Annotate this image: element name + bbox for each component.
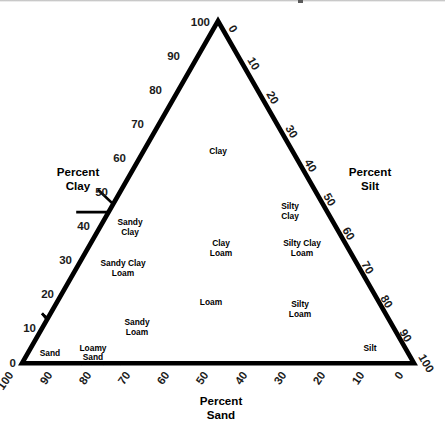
left-tick-50: 50 — [95, 186, 108, 198]
region-label-clay-loam-line1: Clay — [212, 238, 230, 248]
bottom-axis-title-line1: Percent — [200, 394, 243, 407]
region-label-sandy-clay-line1: Sandy — [117, 217, 142, 227]
region-label-sandy-loam-line1: Sandy — [124, 317, 149, 327]
region-label-silty-clay-loam-line1: Silty Clay — [283, 238, 321, 248]
right-axis-title-line1: Percent — [349, 165, 392, 178]
bottom-tick-20: 20 — [310, 369, 327, 386]
region-label-sandy-clay-loam-line1: Sandy Clay — [100, 258, 145, 268]
left-tick-100: 100 — [191, 16, 210, 28]
bottom-tick-10: 10 — [349, 369, 366, 386]
region-label-clay: Clay — [209, 146, 227, 156]
bottom-tick-30: 30 — [271, 369, 288, 386]
bottom-axis-tick-labels: 100 90 80 70 60 50 40 30 20 10 0 — [0, 369, 406, 392]
left-tick-80: 80 — [149, 84, 162, 96]
right-tick-100: 100 — [416, 352, 436, 375]
left-tick-30: 30 — [59, 254, 72, 266]
left-tick-40: 40 — [77, 220, 90, 232]
soil-texture-triangle-figure: Clay Silty Clay Sandy Clay Clay Loam Sil… — [0, 0, 445, 429]
triangle-outline — [22, 21, 414, 363]
region-label-silty-loam-line2: Loam — [289, 309, 311, 319]
left-tick-0: 0 — [10, 357, 16, 369]
bottom-tick-90: 90 — [37, 369, 54, 386]
region-label-clay-loam-line2: Loam — [210, 248, 232, 258]
left-tick-10: 10 — [23, 322, 36, 334]
bottom-tick-80: 80 — [76, 369, 93, 386]
region-label-loamy-sand-line2: Sand — [83, 352, 103, 362]
bottom-tick-40: 40 — [232, 369, 249, 386]
left-axis-title-line1: Percent — [57, 165, 100, 178]
bottom-tick-50: 50 — [193, 369, 210, 386]
left-tick-70: 70 — [131, 118, 144, 130]
region-label-silty-clay-line2: Clay — [281, 211, 299, 221]
region-label-silt: Silt — [363, 343, 376, 353]
bottom-tick-100: 100 — [0, 369, 16, 392]
region-label-sand: Sand — [40, 348, 60, 358]
ternary-diagram-svg: Clay Silty Clay Sandy Clay Clay Loam Sil… — [0, 0, 445, 429]
left-axis-title-line2: Clay — [66, 179, 91, 192]
region-label-silty-clay-loam-line2: Loam — [291, 248, 313, 258]
right-axis-title-line2: Silt — [361, 179, 379, 192]
bottom-axis-title-line2: Sand — [207, 408, 235, 421]
region-label-sandy-loam-line2: Loam — [126, 327, 148, 337]
region-label-silty-loam-line1: Silty — [291, 299, 309, 309]
region-label-silty-clay-line1: Silty — [281, 201, 299, 211]
left-tick-20: 20 — [41, 288, 54, 300]
bottom-tick-70: 70 — [115, 369, 132, 386]
right-tick-0: 0 — [226, 23, 240, 35]
left-tick-60: 60 — [113, 152, 126, 164]
region-label-sandy-clay-loam-line2: Loam — [112, 268, 134, 278]
left-tick-90: 90 — [167, 50, 180, 62]
bottom-tick-60: 60 — [154, 369, 171, 386]
region-label-sandy-clay-line2: Clay — [121, 227, 139, 237]
bottom-tick-0: 0 — [392, 369, 406, 381]
region-label-loam: Loam — [200, 297, 222, 307]
